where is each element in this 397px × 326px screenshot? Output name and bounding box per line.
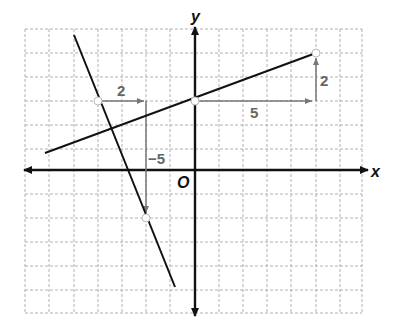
- shallow-line-annotation: [197, 58, 316, 101]
- shallow-line: [45, 53, 316, 153]
- point-steep-2: [142, 214, 150, 222]
- x-axis-label: x: [370, 163, 381, 180]
- shallow-run-label: 5: [250, 104, 258, 121]
- point-shallow-2: [312, 49, 320, 57]
- coordinate-graph: y x O 2 −5 5 2: [0, 0, 397, 326]
- point-shallow-1: [191, 97, 199, 105]
- shallow-rise-label: 2: [320, 72, 328, 89]
- y-axis-label: y: [190, 8, 201, 25]
- steep-run-label: 2: [117, 82, 125, 99]
- origin-label: O: [177, 174, 190, 191]
- point-steep-1: [94, 97, 102, 105]
- steep-rise-label: −5: [148, 150, 165, 167]
